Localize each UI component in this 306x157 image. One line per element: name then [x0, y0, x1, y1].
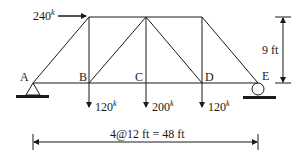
load-label-horizontal: 240k: [33, 8, 55, 23]
member-diagonal-top-C-to-D: [146, 17, 202, 83]
node-label-E: E: [262, 69, 269, 83]
span-dimension-label: 4@12 ft = 48 ft: [110, 127, 185, 141]
roller-support-icon: [243, 83, 276, 99]
load-label-D: 120k: [208, 99, 230, 114]
node-label-A: A: [20, 70, 29, 84]
load-label-C: 200k: [152, 99, 174, 114]
height-dimension-label: 9 ft: [262, 43, 279, 57]
pin-support-icon: [16, 83, 49, 98]
truss-members: [33, 17, 258, 83]
node-label-D: D: [205, 70, 214, 84]
truss-diagram: A B C D E 240k 120k 200k 120k 9 ft 4@12 …: [0, 0, 306, 157]
node-label-C: C: [135, 70, 143, 84]
node-label-B: B: [79, 70, 87, 84]
load-label-B: 120k: [95, 99, 117, 114]
